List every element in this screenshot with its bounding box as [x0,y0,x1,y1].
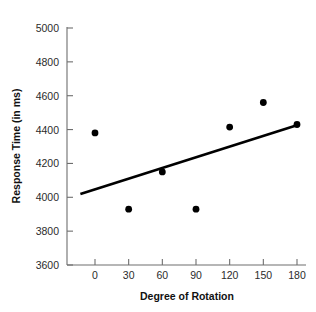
x-tick-label: 60 [156,269,168,281]
y-axis-title: Response Time (in ms) [10,89,22,204]
y-tick-label: 5000 [36,22,60,34]
data-point [193,206,200,213]
data-points [92,99,301,212]
y-tick-label: 4000 [36,191,60,203]
x-tick-label: 150 [255,269,273,281]
y-tick-label: 3800 [36,225,60,237]
x-tick-label: 90 [190,269,202,281]
x-axis-title: Degree of Rotation [140,290,234,302]
data-point [125,206,132,213]
y-tick-label: 4800 [36,56,60,68]
data-point [159,168,166,175]
x-axis-ticks: 0306090120150180 [92,259,306,281]
y-tick-label: 4600 [36,90,60,102]
trend-line [80,124,299,193]
y-tick-label: 4200 [36,157,60,169]
data-point [92,130,99,137]
x-tick-label: 0 [92,269,98,281]
data-point [226,124,233,131]
x-tick-label: 30 [123,269,135,281]
axes [67,27,306,265]
x-tick-label: 120 [221,269,239,281]
plot-canvas: 36003800400042004400460048005000 0306090… [0,0,316,312]
data-point [294,121,301,128]
scatter-plot-figure: 36003800400042004400460048005000 0306090… [0,0,316,312]
y-tick-label: 4400 [36,124,60,136]
data-point [260,99,267,106]
x-tick-label: 180 [288,269,306,281]
y-tick-label: 3600 [36,259,60,271]
